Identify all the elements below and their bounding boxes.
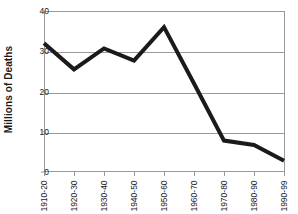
x-tick-label-1960-70: 1960-70 <box>187 178 201 214</box>
y-axis-title-label: Millions of Deaths <box>4 45 15 132</box>
x-tick-label-1970-80: 1970-80 <box>217 178 231 214</box>
x-tick-mark-1970-80 <box>224 172 225 176</box>
plot-area <box>44 11 285 172</box>
x-tick-mark-1960-70 <box>194 172 195 176</box>
x-tick-mark-1930-40 <box>104 172 105 176</box>
y-tick-label-10: 10 <box>29 127 49 137</box>
x-tick-label-text: 1920-30 <box>69 180 79 211</box>
y-tick-mark-20 <box>41 91 44 92</box>
gridline-y-10 <box>45 133 284 134</box>
x-tick-label-text: 1910-20 <box>39 180 49 211</box>
y-tick-label-30: 30 <box>29 46 49 56</box>
x-tick-label-text: 1940-50 <box>129 180 139 211</box>
x-tick-label-text: 1960-70 <box>189 180 199 211</box>
x-tick-mark-1980-90 <box>254 172 255 176</box>
chart-title <box>44 0 285 8</box>
y-tick-mark-40 <box>41 11 44 12</box>
x-tick-label-text: 1950-60 <box>159 180 169 211</box>
y-tick-mark-30 <box>41 51 44 52</box>
x-tick-label-text: 1990-99 <box>279 180 289 211</box>
x-tick-label-text: 1970-80 <box>219 180 229 211</box>
y-tick-label-0: 0 <box>29 167 49 177</box>
x-tick-label-1950-60: 1950-60 <box>157 178 171 214</box>
x-tick-label-1980-90: 1980-90 <box>247 178 261 214</box>
gridline-y-20 <box>45 93 284 94</box>
x-tick-mark-1950-60 <box>164 172 165 176</box>
x-tick-mark-1910-20 <box>44 172 45 176</box>
x-tick-label-text: 1980-90 <box>249 180 259 211</box>
y-tick-label-20: 20 <box>29 87 49 97</box>
gridline-y-30 <box>45 52 284 53</box>
x-tick-label-text: 1930-40 <box>99 180 109 211</box>
x-tick-label-1990-99: 1990-99 <box>277 178 291 214</box>
y-tick-label-40: 40 <box>29 6 49 16</box>
x-tick-label-1940-50: 1940-50 <box>127 178 141 214</box>
x-tick-label-1920-30: 1920-30 <box>67 178 81 214</box>
x-tick-mark-1940-50 <box>134 172 135 176</box>
x-tick-label-1910-20: 1910-20 <box>37 178 51 214</box>
y-axis-title: Millions of Deaths <box>0 0 18 178</box>
line-chart: Millions of Deaths 4030201001910-201920-… <box>0 0 298 214</box>
x-tick-label-1930-40: 1930-40 <box>97 178 111 214</box>
x-tick-mark-1990-99 <box>284 172 285 176</box>
y-tick-mark-10 <box>41 131 44 132</box>
x-tick-mark-1920-30 <box>74 172 75 176</box>
